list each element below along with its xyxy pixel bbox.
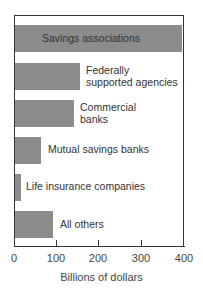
x-tick-100 — [56, 240, 57, 246]
label-federally-line2: supported agencies — [86, 76, 178, 88]
bar-all-others — [15, 211, 53, 238]
x-tick-label-300: 300 — [132, 252, 150, 264]
label-savings-associations: Savings associations — [42, 32, 140, 44]
x-tick-200 — [98, 240, 99, 246]
label-federally-line1: Federally — [86, 64, 129, 76]
bar-mutual-savings-banks — [15, 137, 41, 164]
x-tick-label-100: 100 — [47, 252, 65, 264]
bar-life-insurance-companies — [15, 174, 21, 201]
x-axis-line — [14, 246, 185, 247]
x-tick-300 — [141, 240, 142, 246]
label-commercial-line1: Commercial — [80, 101, 136, 113]
label-life-insurance-companies: Life insurance companies — [26, 180, 145, 192]
x-tick-label-200: 200 — [89, 252, 107, 264]
bar-commercial-banks — [15, 100, 74, 127]
label-commercial-line2: banks — [80, 113, 108, 125]
x-tick-label-400: 400 — [175, 252, 193, 264]
x-tick-label-0: 0 — [11, 252, 17, 264]
label-all-others: All others — [60, 218, 104, 230]
x-axis-title: Billions of dollars — [0, 271, 203, 283]
bar-federally-supported-agencies — [15, 63, 80, 90]
label-mutual-savings-banks: Mutual savings banks — [48, 143, 149, 155]
